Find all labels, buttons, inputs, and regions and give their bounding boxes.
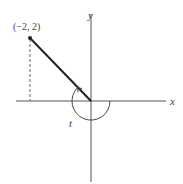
- x-axis-label: x: [169, 95, 175, 107]
- point-marker: [28, 36, 32, 40]
- diagram-canvas: (−2, 2) y x t: [0, 0, 183, 184]
- point-label: (−2, 2): [13, 21, 40, 33]
- y-axis-label: y: [87, 9, 93, 21]
- terminal-segment: [30, 38, 91, 101]
- angle-label: t: [69, 117, 73, 129]
